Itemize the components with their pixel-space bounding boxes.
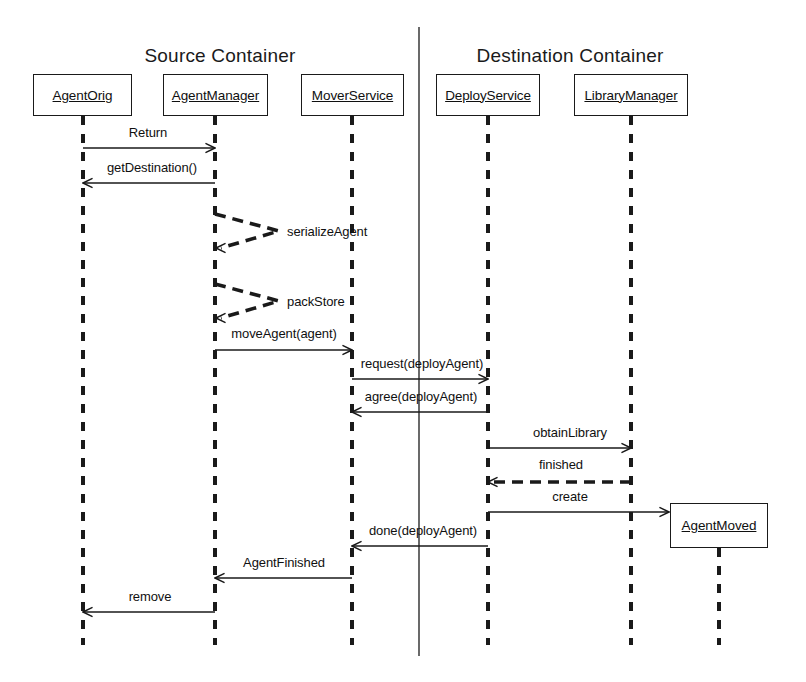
partition-title-source: Source Container (144, 45, 295, 67)
actor-label-agent-manager: AgentManager (172, 88, 259, 103)
actor-box-deploy-service[interactable]: DeployService (436, 74, 540, 116)
message-label-agent-finished: AgentFinished (243, 555, 325, 570)
message-line-pack-store (215, 284, 279, 318)
arrowhead-create (660, 508, 669, 512)
arrowhead-done-deploy (352, 542, 361, 546)
arrowhead-return (206, 144, 215, 148)
message-label-return: Return (129, 125, 167, 140)
sequence-diagram: Source ContainerDestination ContainerAge… (0, 0, 806, 682)
partition-title-destination: Destination Container (477, 45, 664, 67)
arrowhead-serialize-agent (216, 248, 225, 252)
message-label-serialize-agent: serializeAgent (287, 224, 367, 239)
message-line-serialize-agent (215, 214, 279, 248)
actor-box-library-manager[interactable]: LibraryManager (574, 74, 688, 116)
message-label-finished: finished (539, 457, 583, 472)
arrowhead-create (660, 512, 669, 516)
arrowhead-request-deploy (479, 379, 488, 383)
actor-box-agent-orig[interactable]: AgentOrig (33, 74, 132, 116)
actor-box-agent-moved[interactable]: AgentMoved (670, 503, 768, 548)
actor-label-agent-orig: AgentOrig (53, 88, 113, 103)
actor-label-mover-service: MoverService (312, 88, 393, 103)
message-label-request-deploy: request(deployAgent) (361, 356, 483, 371)
arrowhead-pack-store (216, 318, 225, 322)
message-label-agree-deploy: agree(deployAgent) (365, 389, 477, 404)
arrowhead-obtain-library (622, 448, 631, 452)
message-label-done-deploy: done(deployAgent) (369, 523, 477, 538)
arrowhead-agree-deploy (352, 412, 361, 416)
arrowhead-move-agent (343, 346, 352, 350)
actor-label-agent-moved: AgentMoved (682, 518, 757, 533)
arrowhead-serialize-agent (216, 244, 225, 248)
actor-label-deploy-service: DeployService (445, 88, 531, 103)
message-label-create: create (552, 489, 588, 504)
arrowhead-get-destination (83, 179, 92, 183)
arrowhead-remove (83, 612, 92, 616)
message-label-remove: remove (129, 589, 172, 604)
message-label-move-agent: moveAgent(agent) (231, 326, 336, 341)
arrowhead-agent-finished (215, 578, 224, 582)
message-label-obtain-library: obtainLibrary (533, 425, 607, 440)
actor-label-library-manager: LibraryManager (584, 88, 677, 103)
actor-box-agent-manager[interactable]: AgentManager (163, 74, 268, 116)
message-label-get-destination: getDestination() (107, 160, 197, 175)
arrowhead-pack-store (216, 314, 225, 318)
arrowhead-get-destination (83, 183, 92, 187)
actor-box-mover-service[interactable]: MoverService (301, 74, 404, 116)
message-label-pack-store: packStore (287, 294, 345, 309)
arrowhead-return (206, 148, 215, 152)
